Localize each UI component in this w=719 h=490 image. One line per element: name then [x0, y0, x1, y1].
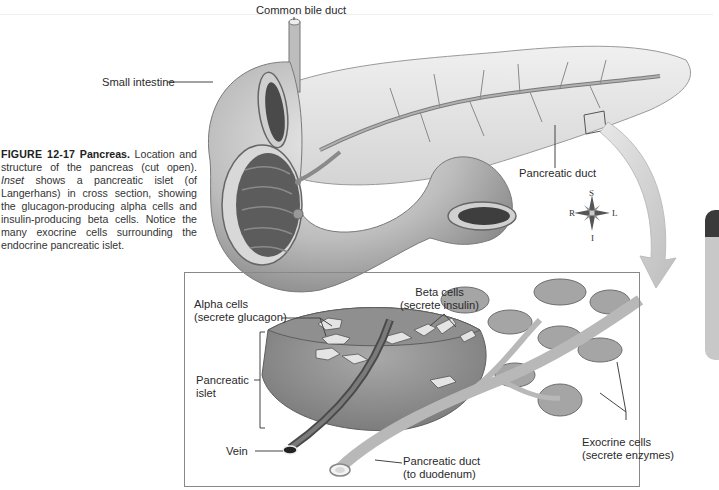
- compass-rose-icon: [574, 195, 610, 231]
- label-alpha-cells: Alpha cells (secrete glucagon): [194, 298, 287, 324]
- inset-arrow: [600, 122, 676, 288]
- beta-line2: (secrete insulin): [400, 299, 479, 312]
- compass-left: L: [612, 208, 618, 218]
- label-small-intestine: Small intestine: [102, 76, 175, 89]
- exocrine-line2: (secrete enzymes): [582, 449, 674, 462]
- alpha-line2: (secrete glucagon): [194, 311, 287, 324]
- islet-line1: Pancreatic: [196, 374, 249, 387]
- alpha-line1: Alpha cells: [194, 298, 287, 311]
- beta-line1: Beta cells: [400, 286, 479, 299]
- compass-inferior: I: [591, 233, 594, 243]
- label-common-bile-duct: Common bile duct: [256, 4, 346, 17]
- duct-line2: (to duodenum): [403, 468, 480, 481]
- compass-right: R: [569, 208, 575, 218]
- label-exocrine-cells: Exocrine cells (secrete enzymes): [582, 436, 674, 462]
- exocrine-line1: Exocrine cells: [582, 436, 674, 449]
- label-pancreatic-islet: Pancreatic islet: [196, 374, 249, 400]
- duct-line1: Pancreatic duct: [403, 455, 480, 468]
- label-vein: Vein: [226, 445, 248, 458]
- label-pancreatic-duct-inset: Pancreatic duct (to duodenum): [403, 455, 480, 481]
- islet-line2: islet: [196, 387, 249, 400]
- compass-superior: S: [589, 188, 594, 198]
- page-side-tab: [705, 210, 719, 360]
- label-pancreatic-duct: Pancreatic duct: [519, 167, 596, 180]
- label-beta-cells: Beta cells (secrete insulin): [400, 286, 479, 312]
